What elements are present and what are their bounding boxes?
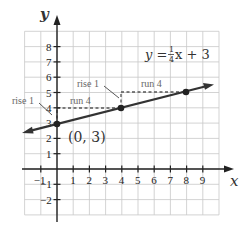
run-label-left: run 4 xyxy=(70,95,91,106)
y-axis-arrow-icon xyxy=(54,15,61,25)
function-line xyxy=(27,87,205,132)
x-tick-label: 8 xyxy=(184,174,190,186)
y-tick-label: 8 xyxy=(46,41,52,53)
x-tick-label: 1 xyxy=(70,174,76,186)
rise-label-right: rise 1 xyxy=(77,78,99,89)
x-tick-label: 6 xyxy=(151,174,157,186)
x-tick-label: 7 xyxy=(167,174,173,186)
line-right-arrow-icon xyxy=(203,83,214,90)
x-tick-label: 3 xyxy=(103,174,109,186)
point-label: (0, 3) xyxy=(68,129,106,145)
equation: y = 1 4 x + 3 xyxy=(144,45,210,64)
y-tick-label: 6 xyxy=(46,71,52,83)
x-tick-label: 5 xyxy=(135,174,141,186)
x-axis-label: x xyxy=(230,172,239,190)
line-left-arrow-icon xyxy=(22,127,34,134)
equation-lhs: y = xyxy=(144,47,167,62)
equation-denominator: 4 xyxy=(169,55,174,64)
y-tick-label: −1 xyxy=(40,178,52,190)
equation-numerator: 1 xyxy=(169,45,174,54)
x-tick-label: 4 xyxy=(119,174,125,186)
line-graph: −112345678987654321−1−2 rise 1 run 4 ris… xyxy=(0,0,250,230)
y-axis-label: y xyxy=(39,5,50,23)
y-tick-label: 5 xyxy=(46,87,52,99)
y-tick-label: 7 xyxy=(46,56,52,68)
equation-rest: x + 3 xyxy=(175,47,210,62)
x-tick-label: 9 xyxy=(200,174,206,186)
run-label-right: run 4 xyxy=(141,78,162,89)
point-0-3 xyxy=(54,121,61,128)
point-4-4 xyxy=(118,105,125,112)
rise-leader-2 xyxy=(104,86,119,98)
y-tick-label: −2 xyxy=(40,194,52,206)
rise-label-left: rise 1 xyxy=(12,95,34,106)
point-8-5 xyxy=(183,89,190,96)
x-tick-label: 2 xyxy=(86,174,92,186)
y-tick-label: 1 xyxy=(46,148,52,160)
y-tick-label: 2 xyxy=(46,132,52,144)
